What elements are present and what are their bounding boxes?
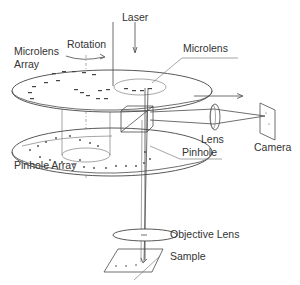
label-objective-lens: Objective Lens	[170, 228, 239, 240]
microlens-array-disk	[12, 70, 212, 112]
label-microlens: Microlens	[183, 42, 228, 54]
label-laser: Laser	[122, 11, 148, 23]
label-pinhole-array: Pinhole Array	[14, 159, 76, 171]
confocal-diagram: Laser Microlens Array Rotation Microlens…	[0, 0, 300, 285]
label-rotation: Rotation	[67, 38, 106, 50]
label-lens: Lens	[201, 133, 224, 145]
camera-sensor	[260, 103, 275, 140]
label-microlens-array-line2: Array	[14, 58, 39, 70]
label-microlens-array-line1: Microlens	[14, 45, 59, 57]
rotation-arrow-icon	[66, 56, 104, 59]
label-camera: Camera	[254, 141, 291, 153]
label-pinhole: Pinhole	[182, 146, 217, 158]
sample-plane	[104, 249, 163, 280]
label-sample: Sample	[170, 250, 206, 262]
